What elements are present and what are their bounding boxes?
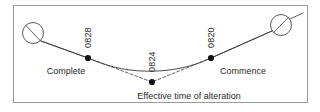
- diagram-frame: [14, 6, 308, 103]
- time-label-middle: 0824: [147, 51, 157, 72]
- time-label-right: 0820: [206, 27, 216, 48]
- marker-effective-time: [149, 79, 155, 85]
- label-effective-time-of-alteration: Effective time of alteration: [137, 91, 240, 101]
- marker-commence: [208, 55, 214, 61]
- diagram-container: 0828 0824 0820 Complete Commence Effecti…: [0, 0, 320, 112]
- label-commence: Commence: [220, 66, 266, 76]
- marker-complete: [85, 55, 91, 61]
- time-label-left: 0828: [83, 27, 93, 48]
- alteration-diagram: 0828 0824 0820 Complete Commence Effecti…: [0, 0, 320, 112]
- label-complete: Complete: [47, 66, 86, 76]
